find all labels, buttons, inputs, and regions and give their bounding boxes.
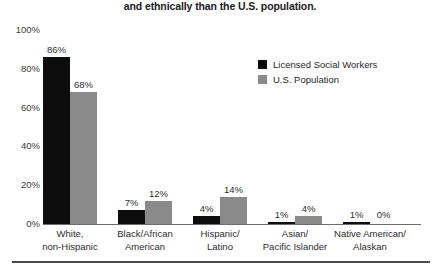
legend-item-label: U.S. Population [273,74,339,85]
bar [220,197,247,224]
bar-value-label: 14% [216,184,251,195]
bar-value-label: 4% [291,203,326,214]
footer-divider [12,261,430,263]
legend-swatch-icon [258,60,267,69]
y-axis-tick-label: 100% [2,24,40,35]
bar [70,92,97,224]
legend-item[interactable]: U.S. Population [258,72,377,87]
bar-value-label: 12% [141,188,176,199]
bar [268,222,295,224]
legend-item[interactable]: Licensed Social Workers [258,57,377,72]
x-axis-category-line: Native American/ [315,228,425,241]
bar [145,201,172,224]
y-axis-tick-label: 80% [2,63,40,74]
bar-value-label: 0% [366,209,401,220]
bar-value-label: 68% [66,79,101,90]
y-axis-tick-label: 60% [2,102,40,113]
legend-swatch-icon [258,75,267,84]
bar-value-label: 4% [189,203,224,214]
bar-chart: 100%80%60%40%20%0% 86%68%White,non-Hispa… [0,0,440,272]
bar [193,216,220,224]
bar-value-label: 7% [114,197,149,208]
bar-value-label: 86% [39,44,74,55]
y-axis-tick-label: 20% [2,179,40,190]
x-axis-category-label: Native American/Alaskan [315,228,425,253]
bar [295,216,322,224]
y-axis-tick-label: 40% [2,140,40,151]
bar [343,222,370,224]
bar [118,210,145,224]
chart-legend: Licensed Social WorkersU.S. Population [258,57,377,87]
x-axis-baseline [43,224,421,225]
legend-item-label: Licensed Social Workers [273,59,377,70]
x-axis-category-line: Alaskan [315,241,425,254]
